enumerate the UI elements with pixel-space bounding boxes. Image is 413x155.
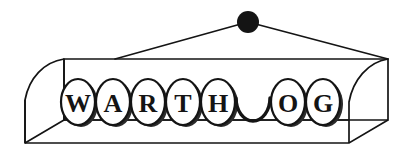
tile-letter: G [313,89,333,118]
figure-canvas: WARTHOG [0,0,413,155]
tile-letter: O [278,89,298,118]
hanging-knob-icon [237,11,259,33]
tile-letter: T [174,89,191,118]
tile-letter: H [208,89,228,118]
tile-letter: R [139,89,158,118]
tile-letter: A [104,89,123,118]
warthog-tray-illustration: WARTHOG [0,0,413,155]
tile-letter: W [65,89,91,118]
